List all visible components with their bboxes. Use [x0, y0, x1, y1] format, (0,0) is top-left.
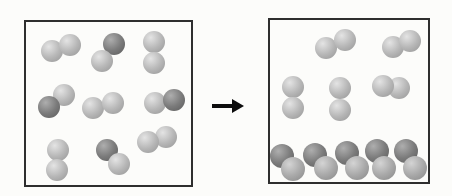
atom-light	[102, 92, 124, 114]
atom-light	[143, 31, 165, 53]
atom-light	[329, 99, 351, 121]
atom-light	[372, 75, 394, 97]
atom-medium	[281, 157, 305, 181]
atom-medium	[403, 156, 427, 180]
atom-light	[282, 76, 304, 98]
atom-light	[91, 50, 113, 72]
atom-light	[46, 159, 68, 181]
atom-medium	[314, 156, 338, 180]
atom-medium	[345, 156, 369, 180]
atom-light	[143, 52, 165, 74]
atom-light	[47, 139, 69, 161]
atom-light	[108, 153, 130, 175]
atom-light	[137, 131, 159, 153]
figure-canvas	[0, 0, 452, 196]
atom-light	[334, 29, 356, 51]
atom-medium	[372, 156, 396, 180]
atom-light	[59, 34, 81, 56]
atom-light	[82, 97, 104, 119]
atom-light	[399, 30, 421, 52]
atom-light	[329, 77, 351, 99]
atom-dark	[163, 89, 185, 111]
atom-light	[282, 97, 304, 119]
molecule-layer	[0, 0, 452, 196]
atom-dark	[38, 96, 60, 118]
